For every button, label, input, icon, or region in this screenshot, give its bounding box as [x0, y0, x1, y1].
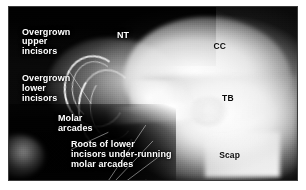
- abbreviation-scap: Scap: [219, 151, 240, 160]
- radiograph-image: Overgrown upper incisorsOvergrown lower …: [8, 6, 298, 181]
- callout-roots-of-lower-incisors: Roots of lower incisors under-running mo…: [71, 140, 172, 169]
- callout-overgrown-upper-incisors: Overgrown upper incisors: [22, 28, 70, 57]
- callout-overgrown-lower-incisors: Overgrown lower incisors: [22, 74, 70, 103]
- callout-molar-arcades: Molar arcades: [58, 114, 93, 133]
- abbreviation-cc: CC: [213, 42, 225, 51]
- figure-frame: Overgrown upper incisorsOvergrown lower …: [0, 0, 306, 190]
- abbreviation-tb: TB: [222, 94, 234, 103]
- abbreviation-nt: NT: [117, 31, 129, 41]
